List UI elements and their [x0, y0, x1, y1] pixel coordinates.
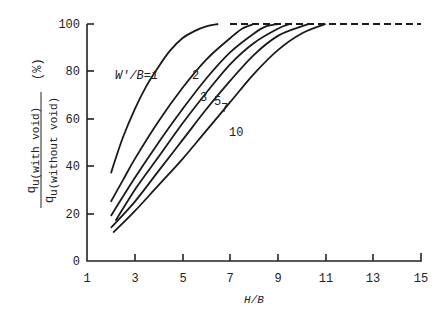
y-tick-label: 100	[58, 18, 80, 32]
y-tick-label: 20	[66, 208, 80, 222]
x-tick-label: 9	[274, 272, 281, 286]
y-axis-label: qu(with void) qu(without void) (%)	[25, 58, 60, 208]
curve-label-1: W'/B=1	[115, 69, 158, 83]
axes-frame	[87, 24, 421, 261]
y-label-unit: (%)	[31, 58, 45, 80]
y-label-denominator: qu(without void)	[43, 97, 60, 203]
curve-series-4	[116, 24, 290, 221]
x-axis-label: H/B	[244, 294, 264, 306]
curve-label-3: 3	[200, 91, 207, 105]
x-tick-label: 11	[319, 272, 333, 286]
x-tick-label: 13	[366, 272, 380, 286]
y-tick-label: 60	[66, 113, 80, 127]
y-label-numerator: qu(with void)	[25, 107, 42, 193]
x-tick-label: 7	[226, 272, 233, 286]
x-tick-label: 15	[414, 272, 428, 286]
y-tick-label: 40	[66, 160, 80, 174]
x-tick-label: 3	[131, 272, 138, 286]
curve-label-7: 7	[221, 102, 228, 116]
curve-series-6	[113, 24, 325, 233]
y-tick-label: 0	[73, 255, 80, 269]
curves	[111, 24, 326, 233]
chart: 100 80 60 40 20 0 1 3 5 7 9 11 13 15 H/B…	[0, 0, 443, 314]
curve-label-10: 10	[229, 126, 243, 140]
x-tick-label: 1	[83, 272, 90, 286]
curve-label-2: 2	[192, 69, 199, 83]
y-tick-label: 80	[66, 65, 80, 79]
x-tick-label: 5	[179, 272, 186, 286]
